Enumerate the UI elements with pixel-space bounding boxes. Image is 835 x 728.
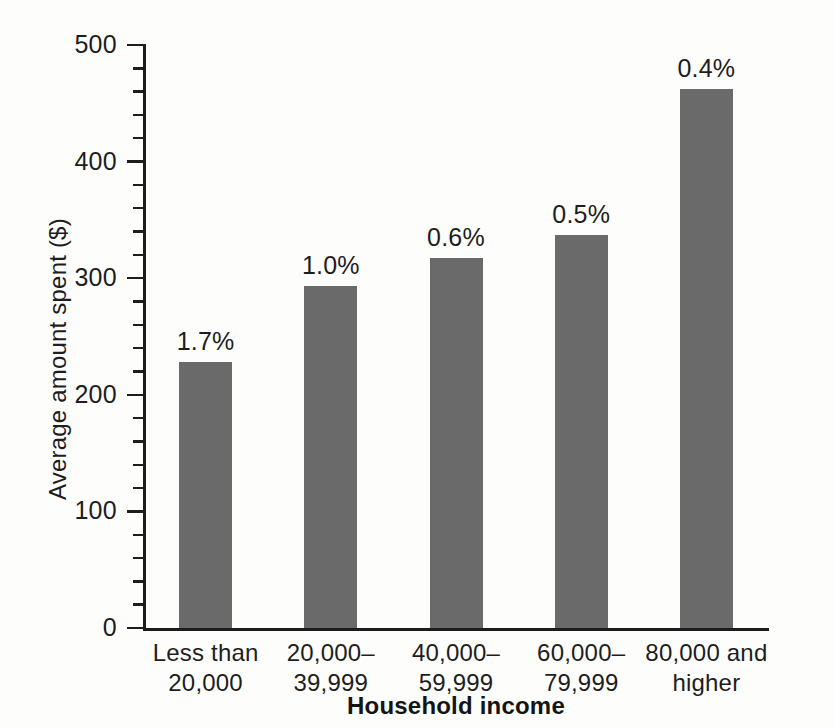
x-axis-category-label: 80,000 andhigher xyxy=(626,638,786,698)
x-axis-category-label-line1: 80,000 and xyxy=(626,638,786,668)
x-axis-title: Household income xyxy=(143,692,769,720)
bar[interactable] xyxy=(680,89,733,628)
bar-value-label: 0.5% xyxy=(521,202,641,227)
bars-layer: 1.7%1.0%0.6%0.5%0.4% xyxy=(0,0,835,629)
bar[interactable] xyxy=(555,235,608,628)
bar-value-label: 0.4% xyxy=(646,56,766,81)
bar[interactable] xyxy=(304,286,357,628)
bar-chart-figure: 5004003002001000 1.7%1.0%0.6%0.5%0.4% Le… xyxy=(0,0,835,728)
bar[interactable] xyxy=(179,362,232,628)
bar-value-label: 1.0% xyxy=(271,253,391,278)
bar[interactable] xyxy=(430,258,483,628)
bar-value-label: 1.7% xyxy=(146,329,266,354)
plot-area: 5004003002001000 1.7%1.0%0.6%0.5%0.4% Le… xyxy=(0,0,835,728)
y-axis-title: Average amount spent ($) xyxy=(44,218,72,500)
bar-value-label: 0.6% xyxy=(396,225,516,250)
